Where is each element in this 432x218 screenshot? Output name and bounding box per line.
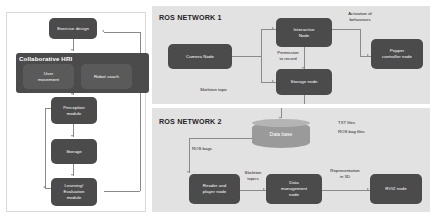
node-exercise-design[interactable]: Exercise design bbox=[49, 18, 97, 39]
node-storage[interactable]: Storage bbox=[51, 139, 97, 164]
connector-datamgmt-to-rviz bbox=[322, 190, 370, 191]
node-user-movement[interactable]: User movement bbox=[23, 64, 74, 89]
node-storage-label: Storage bbox=[66, 149, 82, 155]
connector-storage-node-to-database bbox=[304, 95, 305, 104]
connector-bus-vertical bbox=[261, 29, 262, 82]
node-learning-evaluation-module-label: Learning/ Evaluation module bbox=[63, 183, 84, 201]
database-cylinder-top bbox=[252, 119, 310, 127]
node-data-base[interactable]: Data base bbox=[252, 122, 310, 148]
node-camera-node[interactable]: Camera Node bbox=[168, 44, 232, 69]
node-exercise-design-label: Exercise design bbox=[57, 26, 89, 32]
label-skeleton-topics: Skeleton topics bbox=[236, 170, 270, 181]
connector-interactive-to-pepper-h1 bbox=[332, 29, 360, 30]
arrow-database-to-reader bbox=[187, 171, 189, 173]
node-rviz-node-label: RVIZ node bbox=[385, 186, 406, 192]
arrow-outer-loop-to-exercise bbox=[102, 30, 104, 32]
ros-network-2-title: ROS NETWORK 2 bbox=[159, 117, 222, 126]
node-storage-node[interactable]: Storage node bbox=[276, 69, 332, 95]
arrow-storage-to-learning bbox=[71, 174, 73, 176]
arrow-reader-to-datamgmt bbox=[263, 188, 265, 190]
node-data-management-node-label: Data management node bbox=[281, 180, 307, 198]
node-rviz-node[interactable]: RVIZ node bbox=[370, 174, 422, 204]
node-storage-node-label: Storage node bbox=[291, 79, 318, 85]
diagram-canvas: Exercise design Collaborative HRI User m… bbox=[0, 0, 432, 218]
node-pepper-controller-node[interactable]: Pepper controller node bbox=[371, 39, 423, 69]
node-perception-module-label: Perception module bbox=[63, 105, 85, 117]
ros-network-1-title: ROS NETWORK 1 bbox=[159, 13, 222, 22]
arrow-bus-to-storage bbox=[272, 80, 274, 82]
node-robot-coach-label: Robot coach bbox=[94, 74, 119, 80]
node-interactive-node[interactable]: Interactive Node bbox=[276, 18, 332, 47]
connector-outer-loop-top bbox=[104, 32, 140, 33]
connector-learning-loop-vert bbox=[45, 108, 46, 188]
left-architecture-panel: Exercise design Collaborative HRI User m… bbox=[6, 12, 146, 212]
arrow-perception-to-storage bbox=[71, 135, 73, 137]
connector-database-to-reader-h bbox=[189, 138, 252, 139]
label-skeleton-topic: Skeleton topic bbox=[200, 87, 260, 93]
node-learning-evaluation-module[interactable]: Learning/ Evaluation module bbox=[51, 178, 97, 206]
label-activation-of-behaviours: Activation of behaviours bbox=[330, 11, 390, 22]
ros-network-1-panel: ROS NETWORK 1 Permission to record Skele… bbox=[152, 6, 430, 104]
connector-interactive-to-pepper-v bbox=[360, 29, 361, 56]
connector-camera-to-bus bbox=[232, 56, 261, 57]
arrow-exercise-to-hri bbox=[71, 49, 73, 51]
node-interactive-node-label: Interactive Node bbox=[294, 27, 315, 39]
label-ros-bags: ROS bags bbox=[192, 146, 212, 152]
arrow-datamgmt-to-rviz bbox=[367, 188, 369, 190]
node-camera-node-label: Camera Node bbox=[186, 54, 214, 60]
connector-outer-loop-bottom bbox=[104, 191, 140, 192]
arrow-loop-in bbox=[43, 186, 45, 188]
node-data-management-node[interactable]: Data management node bbox=[266, 174, 322, 204]
arrow-hri-to-perception bbox=[71, 93, 73, 95]
node-pepper-controller-node-label: Pepper controller node bbox=[382, 48, 412, 60]
node-reader-and-player-node[interactable]: Reader and player node bbox=[189, 174, 240, 204]
label-ros-bag-files: ROS bag files bbox=[338, 129, 365, 135]
group-collaborative-hri-title: Collaborative HRI bbox=[19, 55, 72, 62]
connector-database-to-reader-v bbox=[189, 138, 190, 173]
node-robot-coach[interactable]: Robot coach bbox=[81, 64, 132, 89]
node-data-base-label: Data base bbox=[252, 131, 310, 137]
arrow-bus-to-interactive bbox=[272, 27, 274, 29]
ros-network-2-panel: ROS NETWORK 2 TXT files ROS bag files RO… bbox=[152, 108, 430, 212]
label-representation-in-3d: Representation in 3D bbox=[316, 168, 374, 179]
label-txt-files: TXT files bbox=[338, 120, 355, 126]
connector-interactive-to-pepper-h2 bbox=[360, 56, 371, 57]
label-permission-to-record: Permission to record bbox=[270, 50, 306, 61]
node-user-movement-label: User movement bbox=[38, 71, 59, 83]
node-perception-module[interactable]: Perception module bbox=[51, 97, 97, 124]
arrow-interactive-to-pepper bbox=[367, 54, 369, 56]
node-reader-and-player-node-label: Reader and player node bbox=[203, 183, 227, 195]
